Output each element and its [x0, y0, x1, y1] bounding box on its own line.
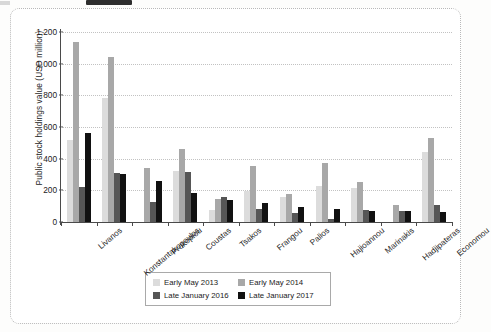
bar-group — [345, 32, 381, 222]
legend-item-late-january-2017: Late January 2017 — [238, 291, 323, 300]
y-axis-tick-label: 400 — [43, 154, 57, 164]
x-axis-label-tsakos: Tsakos — [238, 226, 263, 249]
x-axis-tick-mark — [452, 222, 453, 226]
legend-swatch-icon — [238, 279, 245, 286]
y-axis-tick-label: 600 — [43, 122, 57, 132]
chart-legend: Early May 2013 Early May 2014 Late Janua… — [145, 272, 331, 306]
legend-swatch-icon — [153, 279, 160, 286]
bar-group — [61, 32, 97, 222]
y-axis-tick-label: 1,000 — [36, 59, 57, 69]
x-axis-tick-mark — [97, 222, 98, 226]
bar — [227, 200, 233, 222]
bar — [322, 163, 328, 222]
x-axis-tick-mark — [203, 222, 204, 226]
bar — [334, 209, 340, 222]
x-axis-tick-mark — [416, 222, 417, 226]
bar-group — [381, 32, 417, 222]
legend-label: Late January 2016 — [164, 291, 229, 300]
legend-row: Late January 2016 Late January 2017 — [153, 291, 323, 300]
x-axis-label-hadjipateras: Hadjipateras — [421, 226, 462, 262]
scan-artifact-corner — [0, 1, 10, 5]
x-axis-label-hajioannou: Hajioannou — [349, 226, 387, 260]
y-axis-tick-label: 1,200 — [36, 27, 57, 37]
x-axis-tick-mark — [310, 222, 311, 226]
x-axis-label-frangou: Frangou — [275, 226, 304, 252]
legend-label: Early May 2014 — [249, 278, 303, 287]
x-axis-label-prokopiou: Prokopiou — [170, 226, 204, 257]
bar — [262, 203, 268, 222]
x-axis-line — [60, 222, 452, 223]
x-axis-label-livanos: Livanos — [97, 226, 124, 251]
y-axis-tick-label: 800 — [43, 90, 57, 100]
bar-group — [203, 32, 239, 222]
x-axis-tick-mark — [61, 222, 62, 226]
bar — [156, 181, 162, 222]
bar — [369, 211, 375, 222]
x-axis-tick-mark — [168, 222, 169, 226]
chart-card: Public stock holdings value (USD million… — [10, 8, 461, 324]
x-axis-tick-mark — [345, 222, 346, 226]
bar-group — [274, 32, 310, 222]
x-axis-tick-mark — [274, 222, 275, 226]
x-axis-label-marinakis: Marinakis — [383, 226, 416, 255]
bar-group — [168, 32, 204, 222]
plot-area — [61, 32, 452, 222]
bar — [405, 211, 411, 222]
bar — [298, 207, 304, 222]
x-axis-tick-mark — [239, 222, 240, 226]
bar-group — [97, 32, 133, 222]
scan-artifact-top — [86, 0, 132, 5]
bar — [120, 174, 126, 222]
legend-item-early-may-2014: Early May 2014 — [238, 278, 323, 287]
x-axis-tick-mark — [132, 222, 133, 226]
bar — [191, 193, 197, 222]
bar-group — [239, 32, 275, 222]
y-axis-tick-label: 200 — [43, 185, 57, 195]
y-axis-tick-label: 0 — [52, 217, 57, 227]
bar — [440, 212, 446, 222]
legend-label: Early May 2013 — [164, 278, 218, 287]
legend-swatch-icon — [238, 292, 245, 299]
bar-group — [416, 32, 452, 222]
x-axis-label-palios: Palios — [309, 226, 332, 247]
y-axis-ticks: 1,2001,0008006004002000 — [23, 23, 61, 223]
bar-group — [310, 32, 346, 222]
legend-item-early-may-2013: Early May 2013 — [153, 278, 238, 287]
legend-item-late-january-2016: Late January 2016 — [153, 291, 238, 300]
legend-row: Early May 2013 Early May 2014 — [153, 278, 323, 287]
x-axis-tick-mark — [381, 222, 382, 226]
legend-swatch-icon — [153, 292, 160, 299]
bar — [85, 133, 91, 222]
legend-label: Late January 2017 — [249, 291, 314, 300]
chart-figure: Public stock holdings value (USD million… — [11, 9, 462, 325]
x-axis-label-coustas: Coustas — [204, 226, 233, 252]
bar-group — [132, 32, 168, 222]
